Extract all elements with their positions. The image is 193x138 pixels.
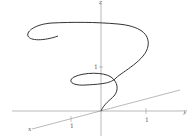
y-axis-label: y: [182, 107, 187, 115]
x-axis: [32, 90, 180, 129]
space-curve-figure: z y x 1 1 1: [0, 0, 193, 138]
x-axis-label: x: [28, 125, 32, 132]
z-tick-label: 1: [94, 63, 98, 70]
x-tick-label: 1: [70, 122, 74, 129]
y-tick-label: 1: [145, 116, 149, 123]
z-axis-label: z: [98, 0, 103, 5]
space-curve: [28, 22, 149, 111]
